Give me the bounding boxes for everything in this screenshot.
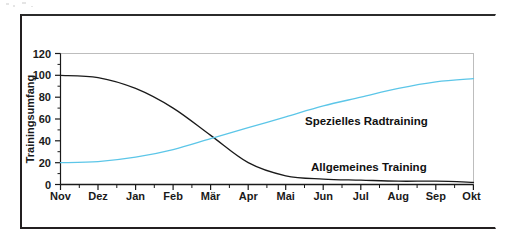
figure-root: 120 100 80 60 40 20 0 Trainingsumfang [0, 0, 506, 249]
x-tick-label-jan: Jan [126, 190, 145, 202]
x-tick-label-maer: Mär [201, 190, 221, 202]
x-axis: Nov Dez Jan Feb Mär Apr Mai Jun Jul Aug … [50, 185, 481, 203]
y-tick-label-0: 0 [45, 179, 51, 191]
x-tick-label-jul: Jul [353, 190, 369, 202]
x-tick-label-jun: Jun [313, 190, 333, 202]
x-tick-label-sep: Sep [426, 190, 446, 202]
x-tick-label-dez: Dez [88, 190, 108, 202]
y-axis: 120 100 80 60 40 20 0 [33, 48, 61, 191]
x-tick-label-feb: Feb [163, 190, 183, 202]
annotation-spezielles-radtraining: Spezielles Radtraining [305, 115, 428, 127]
x-tick-label-apr: Apr [239, 190, 259, 202]
y-tick-label-120: 120 [33, 48, 51, 60]
y-tick-label-40: 40 [39, 135, 51, 147]
annotation-allgemeines-training: Allgemeines Training [311, 161, 427, 173]
x-tick-label-aug: Aug [388, 190, 409, 202]
y-tick-label-60: 60 [39, 113, 51, 125]
y-tick-label-80: 80 [39, 91, 51, 103]
x-tick-label-okt: Okt [462, 190, 481, 202]
y-axis-major-ticks [55, 54, 61, 185]
y-tick-label-20: 20 [39, 157, 51, 169]
chart-canvas: 120 100 80 60 40 20 0 Trainingsumfang [0, 0, 506, 249]
y-axis-title: Trainingsumfang [24, 75, 36, 164]
x-tick-label-nov: Nov [50, 190, 72, 202]
x-tick-label-mai: Mai [277, 190, 295, 202]
